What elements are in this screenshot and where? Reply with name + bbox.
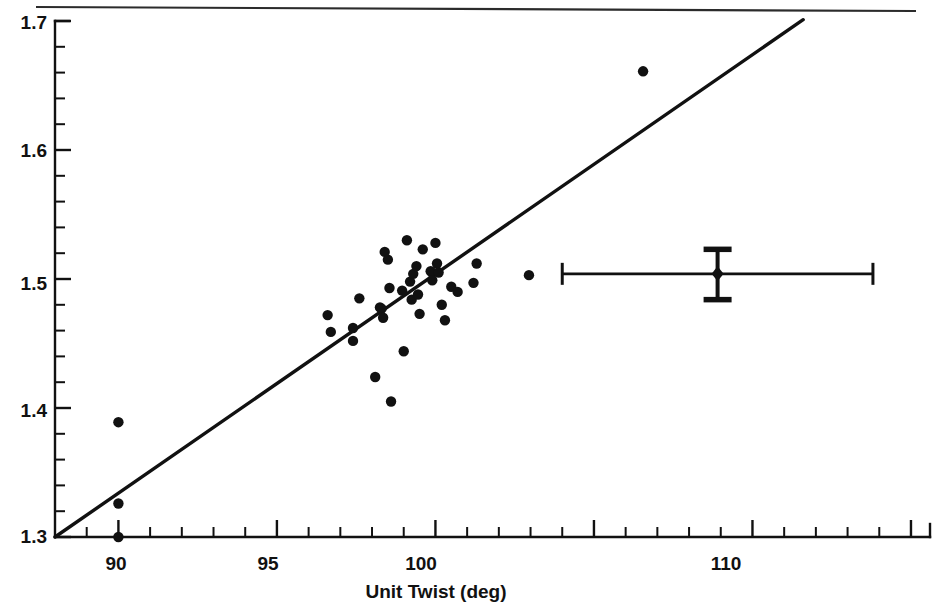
y-tick-label-1.3: 1.3	[21, 526, 47, 547]
x-tick-labels: 90 95 100 110	[105, 553, 741, 574]
data-point	[322, 310, 332, 320]
data-point	[113, 498, 123, 508]
data-point	[113, 532, 123, 542]
chart-figure: 1.7 1.6 1.5 1.4 1.3 90 95 100 110 Unit T…	[0, 0, 948, 612]
error-bar-marker	[562, 249, 873, 299]
data-point	[440, 315, 450, 325]
data-point	[113, 417, 123, 427]
top-rule-decoration	[36, 7, 916, 11]
data-point	[397, 285, 407, 295]
data-point	[378, 313, 388, 323]
data-point	[386, 396, 396, 406]
data-point	[348, 336, 358, 346]
data-point	[430, 238, 440, 248]
x-tick-label-95: 95	[257, 553, 279, 574]
y-axis-ticks	[55, 21, 71, 537]
data-point	[414, 309, 424, 319]
data-point	[468, 278, 478, 288]
data-point	[376, 303, 386, 313]
data-point	[354, 293, 364, 303]
data-point	[638, 66, 648, 76]
data-point	[524, 270, 534, 280]
x-tick-label-100: 100	[405, 553, 437, 574]
axis-lines	[55, 21, 930, 537]
data-point	[437, 300, 447, 310]
data-point	[471, 258, 481, 268]
x-axis-title: Unit Twist (deg)	[365, 581, 506, 602]
data-point	[326, 327, 336, 337]
data-point	[452, 287, 462, 297]
data-point	[370, 372, 380, 382]
y-tick-labels: 1.7 1.6 1.5 1.4 1.3	[21, 12, 48, 547]
data-point	[418, 244, 428, 254]
x-axis-ticks	[55, 520, 911, 537]
y-tick-label-1.7: 1.7	[21, 12, 47, 33]
data-point	[383, 254, 393, 264]
data-point	[411, 261, 421, 271]
data-point	[384, 283, 394, 293]
y-tick-label-1.5: 1.5	[21, 273, 48, 294]
x-tick-label-90: 90	[105, 553, 126, 574]
scatter-plot-svg: 1.7 1.6 1.5 1.4 1.3 90 95 100 110 Unit T…	[0, 0, 948, 612]
error-bar-diamond-marker	[712, 266, 724, 281]
data-point	[348, 323, 358, 333]
x-tick-label-110: 110	[711, 553, 742, 574]
data-point	[413, 289, 423, 299]
data-point	[399, 346, 409, 356]
data-point	[432, 258, 442, 268]
data-point	[433, 267, 443, 277]
data-point	[402, 235, 412, 245]
y-tick-label-1.4: 1.4	[21, 400, 48, 421]
scatter-points	[113, 66, 648, 542]
y-tick-label-1.6: 1.6	[21, 140, 47, 161]
